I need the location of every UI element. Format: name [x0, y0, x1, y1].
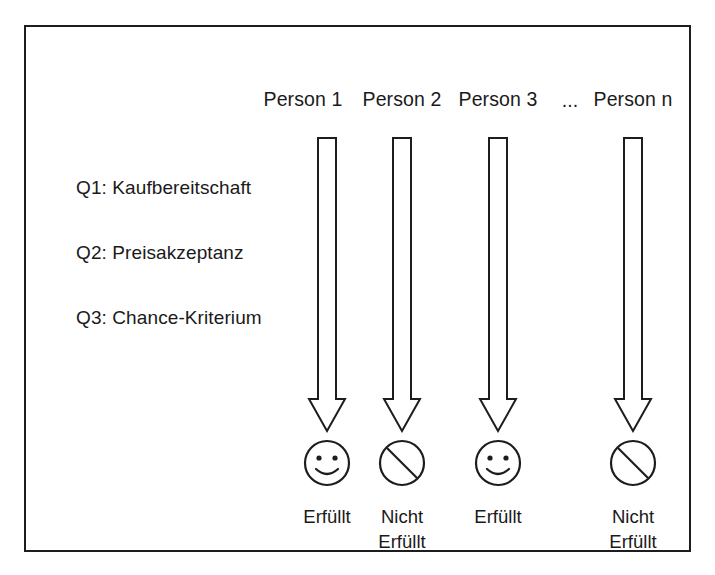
outcome-label-person-n: Nicht Erfüllt — [609, 504, 656, 554]
diagram-frame: Person 1 Person 2 Person 3 ... Person n … — [24, 25, 691, 552]
outcome-label-person-3: Erfüllt — [474, 504, 521, 529]
down-arrow-icon — [613, 137, 653, 433]
column-header-person-3: Person 3 — [459, 87, 538, 111]
criterion-label-q2: Q2: Preisakzeptanz — [76, 241, 244, 265]
smiley-face-icon — [302, 438, 352, 488]
column-header-person-2: Person 2 — [363, 87, 442, 111]
criterion-label-q3: Q3: Chance-Kriterium — [76, 306, 262, 330]
down-arrow-icon — [382, 137, 422, 433]
flow-arrow-person-1 — [307, 137, 347, 433]
column-header-person-1: Person 1 — [264, 87, 343, 111]
diagram-canvas: Person 1 Person 2 Person 3 ... Person n … — [0, 0, 715, 575]
outcome-label-person-1: Erfüllt — [303, 504, 350, 529]
criterion-label-q1: Q1: Kaufbereitschaft — [76, 176, 251, 200]
flow-arrow-person-n — [613, 137, 653, 433]
flow-arrow-person-2 — [382, 137, 422, 433]
outcome-icon-person-3 — [473, 438, 523, 488]
prohibited-circle-icon — [608, 438, 658, 488]
smiley-face-icon — [473, 438, 523, 488]
column-header-person-n: Person n — [594, 87, 673, 111]
column-header-ellipsis: ... — [562, 88, 578, 112]
prohibited-circle-icon — [377, 438, 427, 488]
outcome-label-person-2: Nicht Erfüllt — [378, 504, 425, 554]
down-arrow-icon — [478, 137, 518, 433]
down-arrow-icon — [307, 137, 347, 433]
outcome-icon-person-1 — [302, 438, 352, 488]
outcome-icon-person-2 — [377, 438, 427, 488]
outcome-icon-person-n — [608, 438, 658, 488]
flow-arrow-person-3 — [478, 137, 518, 433]
